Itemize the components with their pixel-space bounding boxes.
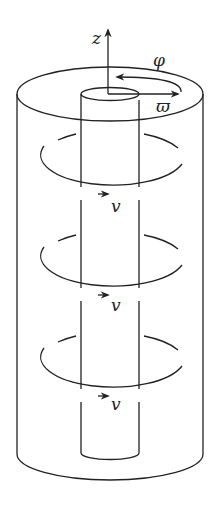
inner-cylinder-bottom <box>81 453 139 459</box>
flow-loop-3 <box>41 336 182 396</box>
velocity-label-2: v <box>111 295 121 315</box>
z-axis-label: z <box>91 28 102 48</box>
flow-loop-1 <box>41 134 182 194</box>
velocity-label-1: v <box>111 196 121 216</box>
coaxial-cylinder-diagram: z φ ϖ v v v <box>0 0 215 508</box>
varpi-label: ϖ <box>156 96 171 116</box>
outer-cylinder-bottom <box>17 454 203 480</box>
phi-direction-arrow <box>117 77 181 92</box>
flow-loop-2 <box>41 235 182 295</box>
velocity-label-3: v <box>111 394 121 414</box>
phi-label: φ <box>153 50 165 70</box>
